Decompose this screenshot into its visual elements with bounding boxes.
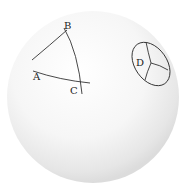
- label-b: B: [64, 20, 71, 31]
- label-c: C: [70, 85, 78, 96]
- sphere: [7, 11, 179, 183]
- sphere-diagram: B A C D: [0, 0, 184, 189]
- label-a: A: [32, 71, 41, 82]
- label-d: D: [136, 57, 144, 68]
